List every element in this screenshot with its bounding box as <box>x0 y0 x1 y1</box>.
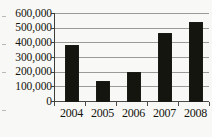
x-axis-tick-label: 2005 <box>91 106 114 120</box>
y-axis-tick-label: 0 <box>0 96 52 108</box>
y-axis-tick-label: 400,000 <box>0 37 52 49</box>
bar <box>127 72 141 101</box>
y-axis-tick-label: 200,000 <box>0 66 52 78</box>
y-axis-tick-label: 300,000 <box>0 52 52 64</box>
y-axis-labels: 0100,000200,000300,000400,000500,000600,… <box>0 0 52 137</box>
x-axis-tick-mark <box>85 102 86 106</box>
y-axis-tick-label: 600,000 <box>0 8 52 20</box>
y-axis-tick-label: 100,000 <box>0 81 52 93</box>
y-axis-tick-label: 500,000 <box>0 22 52 34</box>
x-axis-tick-mark <box>116 102 117 106</box>
x-axis-tick-label: 2007 <box>153 106 176 120</box>
bar <box>96 81 110 101</box>
x-axis-tick-mark <box>209 102 210 106</box>
bar <box>189 22 203 101</box>
x-axis-tick-mark <box>147 102 148 106</box>
x-axis-tick-label: 2006 <box>122 106 145 120</box>
bar-chart-figure: 0100,000200,000300,000400,000500,000600,… <box>0 0 212 137</box>
bar <box>158 33 172 102</box>
x-axis-labels: 20042005200620072008 <box>54 106 212 124</box>
x-axis-tick-mark <box>178 102 179 106</box>
bar-series <box>54 14 209 102</box>
x-axis-tick-label: 2008 <box>184 106 207 120</box>
plot-area <box>54 14 209 102</box>
bar <box>65 45 79 101</box>
x-axis-tick-mark <box>54 102 55 106</box>
x-axis-tick-label: 2004 <box>60 106 83 120</box>
